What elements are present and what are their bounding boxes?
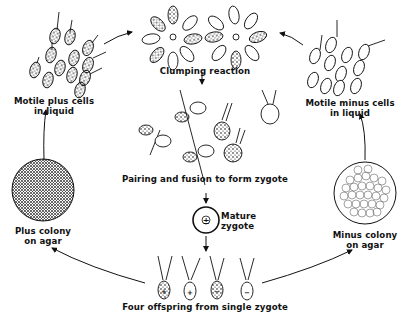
plus-colony-plate bbox=[12, 159, 74, 221]
label-line: Mature bbox=[221, 211, 261, 221]
offspring-sign-1: + bbox=[161, 288, 167, 296]
label-clumping: Clumping reaction bbox=[150, 66, 260, 76]
label-pairing: Pairing and fusion to form zygote bbox=[120, 174, 290, 184]
label-line: in liquid bbox=[295, 108, 405, 118]
offspring-cells bbox=[158, 256, 254, 300]
minus-cells-cluster bbox=[306, 20, 385, 97]
label-line: zygote bbox=[221, 221, 261, 231]
offspring-sign-3: − bbox=[214, 288, 220, 296]
label-plus-colony: Plus colony on agar bbox=[0, 226, 86, 246]
label-line: Motile minus cells bbox=[295, 98, 405, 108]
label-line: Motile plus cells bbox=[4, 96, 104, 106]
label-mature-zygote: Mature zygote bbox=[221, 211, 261, 231]
label-motile-plus: Motile plus cells in liquid bbox=[4, 96, 104, 116]
label-offspring: Four offspring from single zygote bbox=[115, 302, 295, 312]
label-line: in liquid bbox=[4, 106, 104, 116]
label-line: on agar bbox=[322, 240, 407, 250]
label-line: Minus colony bbox=[322, 230, 407, 240]
label-minus-colony: Minus colony on agar bbox=[322, 230, 407, 250]
pairing-cells bbox=[139, 90, 279, 185]
label-motile-minus: Motile minus cells in liquid bbox=[295, 98, 405, 118]
offspring-sign-4: − bbox=[244, 289, 250, 297]
zygote-sign: ± bbox=[203, 217, 210, 226]
life-cycle-diagram: ± + + − − bbox=[0, 0, 407, 319]
minus-colony-plate bbox=[334, 162, 396, 224]
clumping-rosettes bbox=[141, 5, 268, 70]
plus-cells-cluster bbox=[28, 12, 106, 99]
label-line: Plus colony bbox=[0, 226, 86, 236]
label-line: on agar bbox=[0, 236, 86, 246]
offspring-sign-2: + bbox=[187, 289, 193, 297]
